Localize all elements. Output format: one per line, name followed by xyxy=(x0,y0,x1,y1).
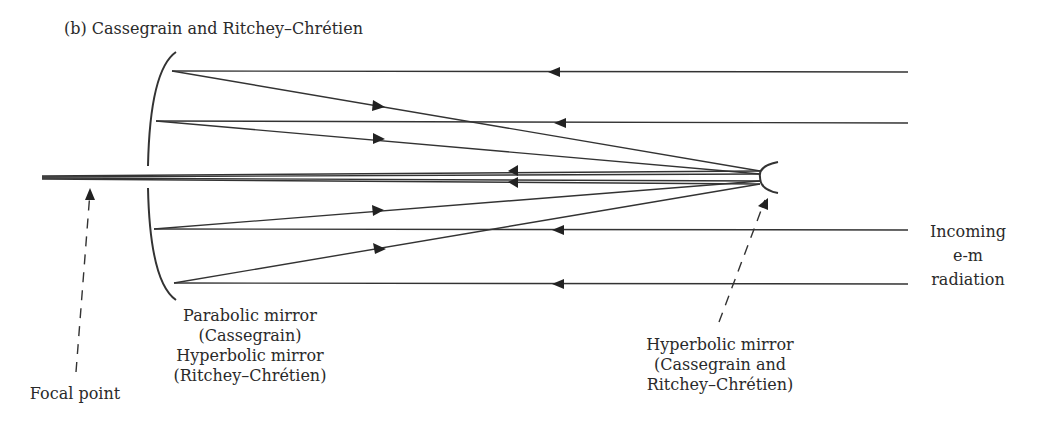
primary-mirror-label-line: (Cassegrain) xyxy=(150,326,350,346)
incoming-ray-4 xyxy=(174,283,908,284)
arrow-icon xyxy=(508,177,518,188)
secondary-mirror-pointer xyxy=(719,200,765,322)
incoming-ray-3 xyxy=(154,229,908,230)
arrow-icon xyxy=(552,225,564,235)
secondary-mirror xyxy=(760,162,778,193)
primary-mirror-label: Parabolic mirror (Cassegrain) Hyperbolic… xyxy=(150,306,350,386)
secondary-mirror-label-line: (Cassegrain and xyxy=(620,355,820,375)
secondary-mirror-label-line: Hyperbolic mirror xyxy=(620,335,820,355)
arrow-icon xyxy=(372,100,385,111)
incoming-radiation-label: Incoming e-m radiation xyxy=(918,220,1018,292)
primary-mirror-lower xyxy=(148,188,176,300)
arrow-icon xyxy=(548,67,560,77)
reflected-ray-2 xyxy=(156,121,760,174)
arrow-icon xyxy=(554,118,566,128)
primary-mirror-label-line: Hyperbolic mirror xyxy=(150,346,350,366)
primary-mirror-upper xyxy=(148,52,176,166)
arrow-icon xyxy=(373,243,386,254)
primary-mirror-label-line: Parabolic mirror xyxy=(150,306,350,326)
incoming-label-line: Incoming xyxy=(918,220,1018,244)
incoming-label-line: e-m xyxy=(918,244,1018,268)
arrow-icon xyxy=(552,279,564,289)
secondary-mirror-label: Hyperbolic mirror (Cassegrain and Ritche… xyxy=(620,335,820,395)
incoming-label-line: radiation xyxy=(918,268,1018,292)
focal-point-arrow-icon xyxy=(85,188,95,200)
focal-point-label: Focal point xyxy=(20,384,130,404)
secondary-mirror-label-line: Ritchey–Chrétien) xyxy=(620,375,820,395)
primary-mirror-label-line: (Ritchey–Chrétien) xyxy=(150,366,350,386)
incoming-ray-2 xyxy=(156,121,908,123)
secondary-mirror-arrow-icon xyxy=(758,198,768,210)
arrow-icon xyxy=(372,205,384,216)
incoming-ray-1 xyxy=(172,71,908,72)
reflected-ray-3 xyxy=(154,181,760,229)
arrow-icon xyxy=(373,133,385,144)
reflected-ray-4 xyxy=(174,184,760,283)
focal-point-pointer xyxy=(76,192,90,372)
